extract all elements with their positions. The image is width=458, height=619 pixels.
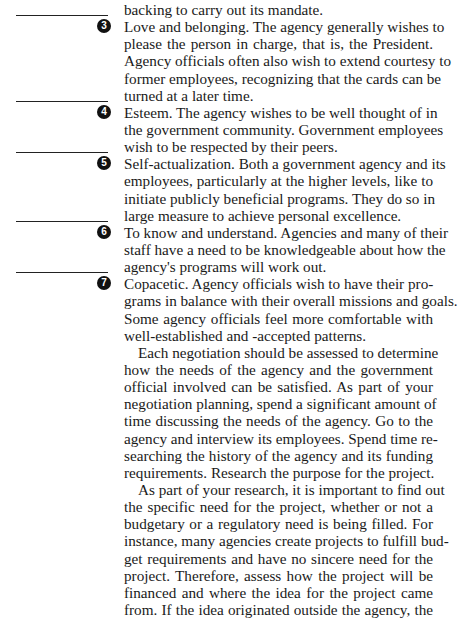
text-line: budgetary or a regulatory need is being … [124, 515, 433, 532]
list-item: 3 Love and belonging. The agency general… [124, 18, 433, 104]
margin-rule [16, 272, 108, 273]
text-line: get requirements and have no sincere nee… [124, 550, 433, 567]
text-line: Each negotiation should be assessed to d… [124, 344, 433, 361]
text-line: how the needs of the agency and the gove… [124, 361, 433, 378]
text-line: As part of your research, it is importan… [124, 481, 433, 498]
text-line: initiate publicly beneficial programs. T… [124, 190, 433, 207]
text-line: financed and where the idea for the proj… [124, 584, 433, 601]
text-line: large measure to achieve personal excell… [124, 207, 433, 224]
text-line: project. Therefore, assess how the proje… [124, 567, 433, 584]
number-badge-icon: 4 [97, 105, 111, 119]
margin-rule [16, 152, 108, 153]
text-line: turned at a later time. [124, 87, 433, 104]
number-badge-icon: 3 [97, 19, 111, 33]
list-item: 5 Self-actualization. Both a government … [124, 155, 433, 224]
text-line: Copacetic. Agency officials wish to have… [124, 275, 433, 292]
document-page: backing to carry out its mandate. 3 Love… [0, 0, 458, 619]
text-line: backing to carry out its mandate. [124, 1, 433, 18]
continuation-text: backing to carry out its mandate. [124, 1, 433, 18]
text-line: employees, particularly at the higher le… [124, 172, 433, 189]
text-line: Love and belonging. The agency generally… [124, 18, 433, 35]
text-line: official involved can be satisfied. As p… [124, 378, 433, 395]
number-badge-icon: 6 [97, 225, 111, 239]
text-line: agency and interview its employees. Spen… [124, 430, 433, 447]
margin-rule [16, 221, 108, 222]
text-line: the government community. Government emp… [124, 121, 433, 138]
text-line: staff have a need to be knowledgeable ab… [124, 241, 433, 258]
number-badge-icon: 7 [97, 276, 111, 290]
text-line: requirements. Research the purpose for t… [124, 464, 433, 481]
text-line: former employees, recognizing that the c… [124, 70, 433, 87]
text-line: please the person in charge, that is, th… [124, 35, 433, 52]
list-item: 7 Copacetic. Agency officials wish to ha… [124, 275, 433, 344]
text-line: Self-actualization. Both a government ag… [124, 155, 433, 172]
body-paragraph: As part of your research, it is importan… [124, 481, 433, 618]
text-column: backing to carry out its mandate. 3 Love… [124, 1, 433, 618]
text-line: the specific need for the project, wheth… [124, 498, 433, 515]
text-line: Some agency officials feel more comforta… [124, 310, 433, 327]
margin-rule [16, 101, 108, 102]
list-item: 6 To know and understand. Agencies and m… [124, 224, 433, 275]
text-line: instance, many agencies create projects … [124, 532, 433, 549]
text-line: negotiation planning, spend a significan… [124, 395, 433, 412]
text-line: Esteem. The agency wishes to be well tho… [124, 104, 433, 121]
body-paragraph: Each negotiation should be assessed to d… [124, 344, 433, 481]
list-item: 4 Esteem. The agency wishes to be well t… [124, 104, 433, 155]
text-line: well-established and -accepted patterns. [124, 327, 433, 344]
text-line: grams in balance with their overall miss… [124, 292, 433, 309]
text-line: Agency officials often also wish to exte… [124, 52, 433, 69]
margin-rule [16, 15, 108, 16]
text-line: To know and understand. Agencies and man… [124, 224, 433, 241]
text-line: time discussing the needs of the agency.… [124, 412, 433, 429]
text-line: searching the history of the agency and … [124, 447, 433, 464]
text-line: from. If the idea originated outside the… [124, 601, 433, 618]
text-line: agency's programs will work out. [124, 258, 433, 275]
text-line: wish to be respected by their peers. [124, 138, 433, 155]
number-badge-icon: 5 [97, 156, 111, 170]
